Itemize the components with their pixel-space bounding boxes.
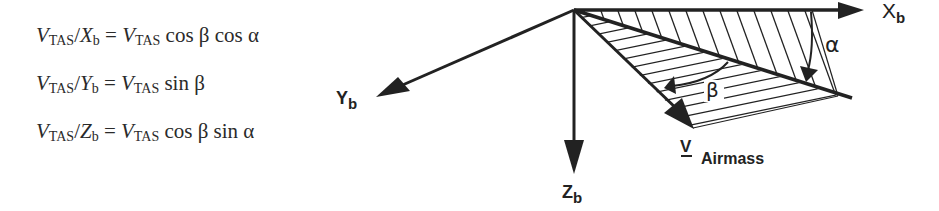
z-axis-arrow [564, 10, 584, 174]
y-axis-arrow [376, 10, 574, 97]
beta-label: β [706, 78, 719, 102]
y-axis-label: Yb [336, 88, 357, 112]
alpha-label: α [825, 32, 840, 57]
z-axis-label: Zb [562, 182, 582, 206]
body-axes-diagram: Xb Yb Zb V Airmass α β [0, 0, 939, 211]
airmass-label: Airmass [701, 150, 764, 167]
x-axis-label: Xb [882, 0, 905, 26]
x-axis-arrow [574, 2, 864, 19]
velocity-symbol: V [680, 137, 692, 156]
